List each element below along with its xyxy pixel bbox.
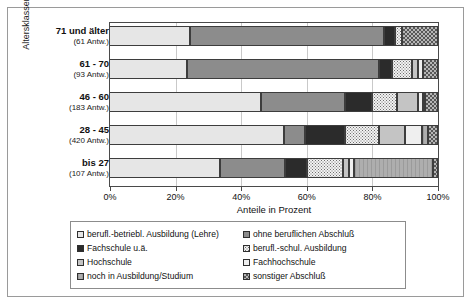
- bar-segment: [345, 93, 373, 111]
- stacked-bar: [110, 59, 438, 79]
- bar-segment: [422, 126, 429, 144]
- bar-segment: [110, 60, 187, 78]
- legend-item[interactable]: berufl.-schul. Ausbildung: [243, 243, 399, 253]
- category-name: 71 und älter: [9, 25, 109, 36]
- category-label: bis 27(107 Antw.): [9, 157, 109, 179]
- bar-segment: [345, 126, 379, 144]
- category-label: 28 - 45(420 Antw.): [9, 124, 109, 146]
- x-axis-tick: [438, 187, 439, 191]
- bar-segment: [397, 93, 418, 111]
- bar-row: [110, 92, 438, 112]
- legend-swatch-icon: [77, 231, 84, 238]
- stacked-bar: [110, 158, 438, 178]
- legend-swatch-icon: [77, 245, 84, 252]
- category-label: 61 - 70(93 Antw.): [9, 58, 109, 80]
- chart-legend: berufl.-betriebl. Ausbildung (Lehre)ohne…: [70, 221, 406, 289]
- bar-row: [110, 26, 438, 46]
- bar-segment: [423, 60, 438, 78]
- bar-segment: [305, 126, 344, 144]
- bar-segment: [402, 27, 438, 45]
- legend-label: noch in Ausbildung/Studium: [87, 271, 193, 281]
- category-name: 61 - 70: [9, 58, 109, 69]
- legend-item[interactable]: Fachschule u.ä.: [77, 243, 243, 253]
- legend-row: berufl.-betriebl. Ausbildung (Lehre)ohne…: [77, 227, 399, 241]
- category-count: (420 Antw.): [9, 135, 109, 146]
- category-label-column: 71 und älter(61 Antw.)61 - 70(93 Antw.)4…: [8, 22, 109, 187]
- category-count: (61 Antw.): [9, 36, 109, 47]
- category-count: (93 Antw.): [9, 69, 109, 80]
- x-axis-tick: [110, 187, 111, 191]
- bar-segment: [110, 159, 220, 177]
- bar-segment: [220, 159, 286, 177]
- bar-segment: [110, 93, 261, 111]
- legend-row: noch in Ausbildung/Studiumsonstiger Absc…: [77, 269, 399, 283]
- x-axis-tick-label: 0%: [90, 192, 130, 202]
- legend-swatch-icon: [243, 259, 250, 266]
- category-label: 71 und älter(61 Antw.): [9, 25, 109, 47]
- bar-segment: [412, 60, 419, 78]
- bar-segment: [110, 126, 284, 144]
- bar-segment: [372, 93, 397, 111]
- bar-segment: [307, 159, 343, 177]
- category-name: 46 - 60: [9, 91, 109, 102]
- x-axis-tick-label: 100%: [418, 192, 458, 202]
- bar-row: [110, 59, 438, 79]
- bar-segment: [433, 159, 438, 177]
- legend-label: berufl.-betriebl. Ausbildung (Lehre): [87, 229, 219, 239]
- bar-segment: [284, 126, 305, 144]
- x-axis-tick: [241, 187, 242, 191]
- legend-item[interactable]: Fachhochschule: [243, 257, 399, 267]
- legend-swatch-icon: [77, 259, 84, 266]
- bar-segment: [343, 159, 350, 177]
- plot-area: [109, 22, 439, 187]
- legend-swatch-icon: [77, 273, 84, 280]
- legend-item[interactable]: noch in Ausbildung/Studium: [77, 271, 243, 281]
- legend-label: ohne beruflichen Abschluß: [253, 229, 354, 239]
- chart-figure: Altersklassen 71 und älter(61 Antw.)61 -…: [7, 7, 464, 297]
- x-axis-tick-label: 40%: [221, 192, 261, 202]
- x-axis-tick-label: 20%: [156, 192, 196, 202]
- category-count: (183 Antw.): [9, 102, 109, 113]
- legend-item[interactable]: Hochschule: [77, 257, 243, 267]
- bar-segment: [392, 60, 412, 78]
- x-axis-tick-label: 60%: [287, 192, 327, 202]
- category-name: bis 27: [9, 157, 109, 168]
- stacked-bar: [110, 92, 438, 112]
- category-name: 28 - 45: [9, 124, 109, 135]
- x-axis-tick-label: 80%: [352, 192, 392, 202]
- legend-label: Fachschule u.ä.: [87, 243, 148, 253]
- legend-row: Fachschule u.ä.berufl.-schul. Ausbildung: [77, 241, 399, 255]
- bar-row: [110, 158, 438, 178]
- legend-item[interactable]: ohne beruflichen Abschluß: [243, 229, 399, 239]
- legend-item[interactable]: berufl.-betriebl. Ausbildung (Lehre): [77, 229, 243, 239]
- legend-label: Hochschule: [87, 257, 132, 267]
- legend-label: Fachhochschule: [253, 257, 316, 267]
- bar-segment: [379, 60, 392, 78]
- bar-segment: [187, 60, 379, 78]
- x-axis-tick: [372, 187, 373, 191]
- category-count: (107 Antw.): [9, 168, 109, 179]
- legend-swatch-icon: [243, 231, 250, 238]
- x-axis-tick: [307, 187, 308, 191]
- bar-segment: [190, 27, 384, 45]
- bar-segment: [379, 126, 405, 144]
- bar-segment: [384, 27, 395, 45]
- bar-segment: [405, 126, 421, 144]
- legend-label: berufl.-schul. Ausbildung: [253, 243, 347, 253]
- bar-segment: [285, 159, 306, 177]
- stacked-bar: [110, 125, 438, 145]
- legend-label: sonstiger Abschluß: [253, 271, 326, 281]
- bar-segment: [261, 93, 345, 111]
- bar-segment: [110, 27, 190, 45]
- bar-segment: [425, 93, 438, 111]
- x-axis-title: Anteile in Prozent: [109, 204, 439, 215]
- legend-swatch-icon: [243, 245, 250, 252]
- legend-item[interactable]: sonstiger Abschluß: [243, 271, 399, 281]
- legend-row: HochschuleFachhochschule: [77, 255, 399, 269]
- bar-segment: [428, 126, 438, 144]
- x-axis-tick: [176, 187, 177, 191]
- stacked-bar: [110, 26, 438, 46]
- bar-segment: [354, 159, 433, 177]
- category-label: 46 - 60(183 Antw.): [9, 91, 109, 113]
- bar-row: [110, 125, 438, 145]
